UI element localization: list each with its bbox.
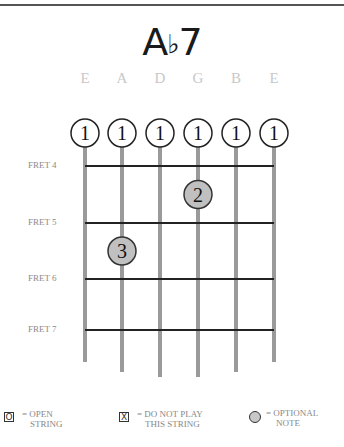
finger-number: 1 [155,122,165,144]
finger-number: 2 [193,184,203,206]
finger-number: 1 [117,122,127,144]
chord-diagram: 11111123 [0,0,344,447]
legend-open-line1: = OPEN [22,409,63,419]
legend-optional-line1: = OPTIONAL [266,408,318,418]
finger-number: 3 [117,240,127,262]
finger-number: 1 [231,122,241,144]
finger-number: 1 [269,122,279,144]
finger-number: 1 [193,122,203,144]
legend-mute-line2: THIS STRING [137,419,203,429]
finger-number: 1 [80,122,90,144]
mute-string-icon: X [119,412,129,422]
legend-mute: = DO NOT PLAY THIS STRING [137,409,203,429]
legend-optional-line2: NOTE [266,418,318,428]
mute-symbol: X [121,412,127,422]
open-symbol: O [5,412,12,422]
legend-optional: = OPTIONAL NOTE [266,408,318,428]
legend-mute-line1: = DO NOT PLAY [137,409,203,419]
legend-open: = OPEN STRING [22,409,63,429]
optional-note-icon [249,411,261,423]
open-string-icon: O [4,412,14,422]
legend-open-line2: STRING [22,419,63,429]
